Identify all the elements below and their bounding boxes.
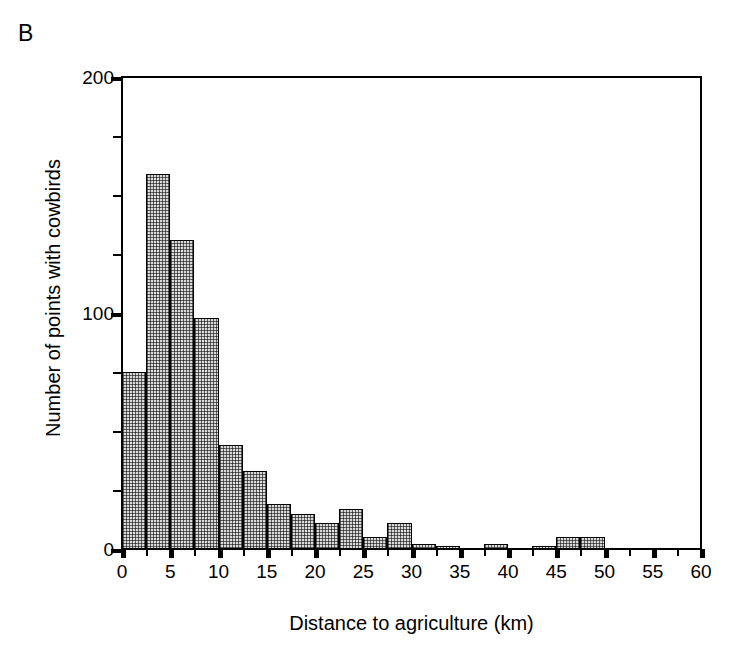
- x-axis-minor-tick: [484, 549, 486, 556]
- x-axis-major-tick: [169, 549, 174, 558]
- y-axis-minor-tick: [113, 195, 122, 197]
- x-axis-major-tick: [266, 549, 271, 558]
- x-axis-minor-tick: [436, 549, 438, 556]
- x-axis-major-tick: [700, 549, 705, 558]
- histogram-bar: [315, 523, 339, 549]
- x-axis-minor-tick: [677, 549, 679, 556]
- x-axis-tick-label: 20: [304, 562, 325, 581]
- x-axis-tick-label: 10: [208, 562, 229, 581]
- y-axis-tick-label: 0: [103, 540, 114, 559]
- x-axis-tick-label: 25: [353, 562, 374, 581]
- x-axis-minor-tick: [194, 549, 196, 556]
- x-axis-minor-tick: [291, 549, 293, 556]
- y-axis-minor-tick: [113, 490, 122, 492]
- x-axis-minor-tick: [146, 549, 148, 556]
- x-axis-major-tick: [507, 549, 512, 558]
- histogram-bar: [532, 546, 556, 549]
- histogram-bar: [194, 318, 218, 549]
- x-axis-tick-label: 30: [401, 562, 422, 581]
- histogram-bar: [122, 372, 146, 549]
- x-axis-tick-label: 0: [117, 562, 128, 581]
- y-axis-minor-tick: [113, 372, 122, 374]
- x-axis-minor-tick: [387, 549, 389, 556]
- histogram-bar: [291, 514, 315, 549]
- x-axis-minor-tick: [243, 549, 245, 556]
- histogram-bar: [436, 546, 460, 549]
- x-axis-major-tick: [411, 549, 416, 558]
- plot-area: 0100200 051015202530354045505560: [122, 77, 701, 549]
- histogram-bar: [484, 544, 508, 549]
- x-axis-major-tick: [555, 549, 560, 558]
- histogram-bar: [170, 240, 194, 549]
- x-axis-tick-label: 55: [642, 562, 663, 581]
- x-axis-major-tick: [121, 549, 126, 558]
- x-axis-tick-label: 40: [497, 562, 518, 581]
- x-axis-minor-tick: [629, 549, 631, 556]
- x-axis-title: Distance to agriculture (km): [122, 612, 701, 635]
- y-axis-title: Number of points with cowbirds: [42, 63, 65, 533]
- x-axis-minor-tick: [339, 549, 341, 556]
- histogram-bar: [243, 471, 267, 549]
- x-axis-tick-label: 5: [165, 562, 176, 581]
- histogram-bar: [556, 537, 580, 549]
- histogram-bar: [363, 537, 387, 549]
- y-axis-tick-label: 200: [82, 68, 114, 87]
- y-axis-minor-tick: [113, 254, 122, 256]
- panel-label: B: [18, 22, 34, 45]
- x-axis-tick-label: 15: [256, 562, 277, 581]
- x-axis-major-tick: [362, 549, 367, 558]
- y-axis-tick-label: 100: [82, 304, 114, 323]
- x-axis-major-tick: [218, 549, 223, 558]
- x-axis-tick-label: 60: [690, 562, 711, 581]
- x-axis-major-tick: [652, 549, 657, 558]
- histogram-bar: [219, 445, 243, 549]
- histogram-bar: [146, 174, 170, 549]
- x-axis-minor-tick: [532, 549, 534, 556]
- histogram-bar: [580, 537, 604, 549]
- histogram-bar: [387, 523, 411, 549]
- x-axis-tick-label: 35: [449, 562, 470, 581]
- x-axis-major-tick: [604, 549, 609, 558]
- x-axis-minor-tick: [580, 549, 582, 556]
- histogram-bar: [267, 504, 291, 549]
- x-axis-major-tick: [314, 549, 319, 558]
- x-axis-tick-label: 45: [546, 562, 567, 581]
- histogram-bar: [339, 509, 363, 549]
- figure-panel-b: B 0100200 051015202530354045505560 Numbe…: [0, 0, 737, 657]
- x-axis-tick-label: 50: [594, 562, 615, 581]
- x-axis-major-tick: [459, 549, 464, 558]
- y-axis-minor-tick: [113, 136, 122, 138]
- y-axis-minor-tick: [113, 431, 122, 433]
